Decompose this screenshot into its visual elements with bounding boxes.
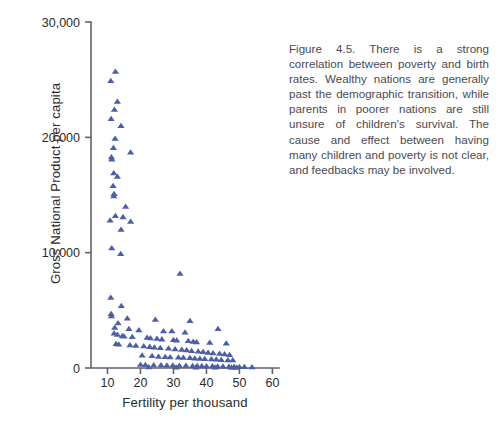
data-point-marker (124, 315, 131, 320)
data-point-marker (167, 354, 174, 359)
data-points (107, 69, 256, 370)
scatter-chart: 010,00020,00030,000 102030405060 Gross N… (0, 0, 300, 429)
y-tick-label: 0 (73, 362, 80, 376)
data-point-marker (219, 363, 226, 368)
data-point-marker (214, 326, 221, 331)
data-point-marker (118, 303, 125, 308)
data-point-marker (107, 78, 114, 83)
x-tick-label: 30 (167, 376, 181, 390)
y-tick-label: 30,000 (42, 16, 80, 30)
data-point-marker (209, 350, 216, 355)
data-point-marker (114, 99, 121, 104)
x-tick-label: 50 (232, 376, 246, 390)
data-point-marker (152, 317, 159, 322)
x-axis-tick-labels: 102030405060 (101, 376, 280, 390)
data-point-marker (127, 218, 134, 223)
data-point-marker (165, 345, 172, 350)
data-point-marker (229, 357, 236, 362)
data-point-marker (127, 149, 134, 154)
data-point-marker (110, 170, 117, 175)
data-point-marker (112, 213, 119, 218)
data-point-marker (157, 362, 164, 367)
data-point-marker (223, 340, 230, 345)
data-point-marker (150, 362, 157, 367)
data-point-marker (111, 107, 118, 112)
data-point-marker (163, 362, 170, 367)
data-point-marker (126, 342, 133, 347)
y-axis-ticks (85, 22, 91, 368)
figure-container: 010,00020,00030,000 102030405060 Gross N… (0, 0, 498, 429)
data-point-marker (148, 353, 155, 358)
x-axis-title: Fertility per thousand (90, 395, 280, 410)
data-point-marker (218, 357, 225, 362)
data-point-marker (176, 270, 183, 275)
data-point-marker (117, 251, 124, 256)
x-tick-label: 20 (134, 376, 148, 390)
data-point-marker (125, 326, 132, 331)
data-point-marker (241, 364, 248, 369)
data-point-marker (180, 355, 187, 360)
data-point-marker (206, 340, 213, 345)
data-point-marker (117, 227, 124, 232)
axis-lines (91, 22, 279, 368)
data-point-marker (114, 320, 121, 325)
data-point-marker (168, 328, 175, 333)
data-point-marker (107, 295, 114, 300)
y-axis-title: Gross National Product per capita (48, 34, 63, 334)
data-point-marker (226, 352, 233, 357)
data-point-marker (111, 325, 118, 330)
data-point-marker (129, 334, 136, 339)
data-point-marker (140, 343, 147, 348)
data-point-marker (157, 345, 164, 350)
data-point-marker (203, 363, 210, 368)
data-point-marker (135, 327, 142, 332)
x-tick-label: 40 (199, 376, 213, 390)
data-point-marker (111, 135, 118, 140)
data-point-marker (117, 123, 124, 128)
data-point-marker (181, 329, 188, 334)
data-point-marker (201, 356, 208, 361)
data-point-marker (188, 348, 195, 353)
data-point-marker (109, 183, 116, 188)
data-point-marker (155, 353, 162, 358)
x-tick-label: 10 (101, 376, 115, 390)
data-point-marker (158, 336, 165, 341)
data-point-marker (182, 363, 189, 368)
data-point-marker (108, 245, 115, 250)
data-point-marker (112, 69, 119, 74)
x-tick-label: 60 (265, 376, 279, 390)
data-point-marker (110, 145, 117, 150)
data-point-marker (122, 203, 129, 208)
plot-canvas: 010,00020,00030,000 102030405060 (0, 0, 300, 429)
data-point-marker (160, 328, 167, 333)
data-point-marker (139, 352, 146, 357)
data-point-marker (186, 318, 193, 323)
data-point-marker (119, 214, 126, 219)
figure-caption: Figure 4.5. There is a strong correlatio… (289, 41, 489, 177)
data-point-marker (107, 217, 114, 222)
data-point-marker (108, 116, 115, 121)
data-point-marker (132, 342, 139, 347)
data-point-marker (248, 364, 255, 369)
data-point-marker (172, 346, 179, 351)
